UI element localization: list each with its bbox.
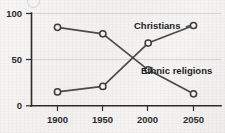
y-axis-ticks (26, 14, 32, 106)
x-tick-label-1950: 1950 (92, 114, 113, 125)
series-annotation-ethnic-religions: Ethnic religions (141, 65, 212, 76)
series-markers-ethnic-religions (54, 24, 196, 97)
data-point-marker (190, 22, 196, 28)
x-tick-label-2050: 2050 (183, 114, 204, 125)
line-chart-plot: 100 50 0 1900 1950 2000 2050 Christians … (0, 0, 225, 133)
x-tick-label-2000: 2000 (137, 114, 158, 125)
chart-figure: 100 50 0 1900 1950 2000 2050 Christians … (0, 0, 225, 133)
series-line-christians (58, 26, 194, 92)
y-tick-label-50: 50 (11, 54, 22, 65)
series-line-ethnic-religions (58, 27, 194, 93)
series-annotation-christians: Christians (134, 20, 180, 31)
data-point-marker (190, 91, 196, 97)
x-tick-label-1900: 1900 (47, 114, 68, 125)
y-tick-label-100: 100 (6, 8, 22, 19)
data-point-marker (100, 83, 106, 89)
data-point-marker (100, 31, 106, 37)
y-tick-label-0: 0 (17, 100, 22, 111)
data-point-marker (54, 89, 60, 95)
data-point-marker (54, 24, 60, 30)
data-point-marker (145, 40, 151, 46)
